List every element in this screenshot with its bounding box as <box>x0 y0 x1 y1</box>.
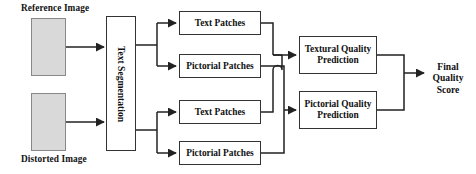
distorted-image-thumbnail <box>31 93 66 151</box>
text-patches-reference-label: Text Patches <box>195 18 245 29</box>
final-quality-score-line2: Score <box>421 84 475 95</box>
pictorial-patches-reference-label: Pictorial Patches <box>186 61 253 72</box>
final-quality-score-text: Final Quality Score <box>421 61 475 95</box>
edge-pictorial-to-final <box>377 73 404 110</box>
pictorial-patches-reference-box: Pictorial Patches <box>179 54 261 78</box>
text-patches-distorted-label: Text Patches <box>195 107 245 118</box>
textural-quality-prediction-line1: Textural Quality <box>305 44 372 55</box>
reference-image-thumbnail <box>31 18 66 76</box>
textural-quality-prediction-line2: Prediction <box>317 55 359 66</box>
reference-image-label: Reference Image <box>21 3 89 13</box>
edge-pictorial-dist-to-pictorial-bus <box>261 110 284 153</box>
distorted-image-label: Distorted Image <box>21 154 87 164</box>
edge-text-dist-to-textural-bus <box>261 70 273 112</box>
text-patches-reference-box: Text Patches <box>179 11 261 35</box>
pictorial-quality-prediction-line2: Prediction <box>317 110 359 121</box>
edge-textural-to-final <box>377 55 404 73</box>
textural-quality-prediction-box: Textural Quality Prediction <box>299 36 377 74</box>
text-patches-distorted-box: Text Patches <box>179 100 261 124</box>
final-quality-score-line1: Final Quality <box>421 61 475 84</box>
text-segmentation-label: Text Segmentation <box>116 45 127 121</box>
pictorial-quality-prediction-line1: Pictorial Quality <box>305 99 372 110</box>
text-segmentation-box: Text Segmentation <box>106 16 136 151</box>
pictorial-patches-distorted-box: Pictorial Patches <box>179 141 261 165</box>
pictorial-quality-prediction-box: Pictorial Quality Prediction <box>299 91 377 129</box>
pictorial-patches-distorted-label: Pictorial Patches <box>186 148 253 159</box>
edge-text-ref-to-textural-bus <box>261 23 273 55</box>
